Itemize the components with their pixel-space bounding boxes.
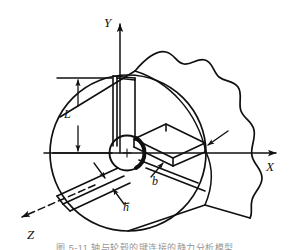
axis-label-y: Y [104, 16, 111, 29]
center-mark-plus [123, 149, 131, 157]
hub-lower-right-silhouette [205, 205, 250, 218]
background-bleed-text [150, 222, 290, 236]
axis-label-z: Z [27, 228, 34, 241]
axis-label-x: X [266, 160, 274, 173]
dimension-label-L: L [64, 108, 71, 120]
dimension-label-h: h [123, 201, 129, 213]
break-line-wavy [135, 52, 262, 218]
shaft-keyway-diagram [0, 0, 290, 250]
dimension-label-b: b [152, 175, 158, 187]
keyway-lower-left [57, 168, 130, 211]
hub-back-arc-upper [135, 71, 206, 152]
leader-arrow-hub [208, 131, 228, 145]
figure-caption: 图 5-11 轴与轮毂的键连接的静力分析模型 [0, 241, 290, 250]
